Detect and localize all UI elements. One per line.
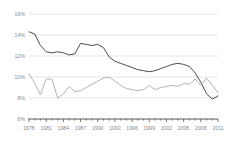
x-tick-label: 1990 bbox=[92, 125, 104, 131]
x-tick-label: 2002 bbox=[161, 125, 173, 131]
x-axis-tick-labels: 1978198119841987199019931996199920022005… bbox=[23, 125, 223, 131]
x-tick-label: 2005 bbox=[178, 125, 190, 131]
series-line-series-dark bbox=[29, 32, 218, 99]
y-axis-tick-labels: 16%14%12%10%8%6% bbox=[15, 11, 26, 122]
x-tick-label: 1993 bbox=[109, 125, 121, 131]
y-tick-label: 12% bbox=[15, 53, 26, 59]
x-tick-label: 1984 bbox=[58, 125, 70, 131]
x-tick-label: 1996 bbox=[126, 125, 138, 131]
y-tick-label: 6% bbox=[18, 116, 26, 122]
y-tick-label: 8% bbox=[18, 95, 26, 101]
x-tick-label: 2008 bbox=[195, 125, 207, 131]
line-chart: 16%14%12%10%8%6% 19781981198419871990199… bbox=[0, 0, 230, 143]
x-tick-label: 1987 bbox=[75, 125, 87, 131]
chart-canvas: 16%14%12%10%8%6% 19781981198419871990199… bbox=[0, 0, 230, 143]
data-series-group bbox=[29, 32, 218, 99]
x-tick-label: 1978 bbox=[23, 125, 35, 131]
x-tick-label: 1999 bbox=[143, 125, 155, 131]
x-axis bbox=[28, 119, 218, 122]
y-tick-label: 14% bbox=[15, 32, 26, 38]
x-tick-label: 1981 bbox=[40, 125, 52, 131]
y-tick-label: 16% bbox=[15, 11, 26, 17]
y-tick-label: 10% bbox=[15, 74, 26, 80]
x-tick-label: 2011 bbox=[212, 125, 223, 131]
series-line-series-light bbox=[29, 74, 218, 98]
